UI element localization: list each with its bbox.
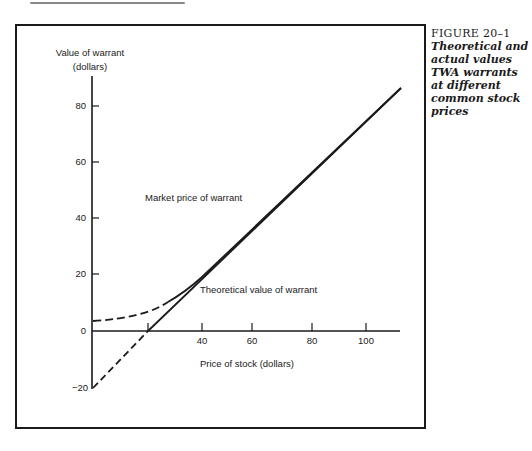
y-tick-label: 20 xyxy=(75,268,86,279)
warrant-chart: 80 60 40 20 0 −20 40 60 80 100 Value of … xyxy=(0,0,532,451)
theoretical-value-line-dashed xyxy=(93,331,148,388)
market-price-curve-dashed xyxy=(93,302,168,321)
x-tick-label: 80 xyxy=(307,335,318,346)
y-tick-label: −20 xyxy=(72,382,88,393)
x-tick-label: 100 xyxy=(358,335,374,346)
y-tick-label: 60 xyxy=(75,156,86,167)
x-axis-title: Price of stock (dollars) xyxy=(200,358,294,369)
x-ticks xyxy=(148,323,366,331)
x-tick-label: 40 xyxy=(197,335,208,346)
y-tick-label: 40 xyxy=(75,212,86,223)
y-tick-label: 80 xyxy=(75,100,86,111)
y-axis-title: Value of warrant xyxy=(56,47,125,58)
x-tick-label: 60 xyxy=(247,335,258,346)
y-axis-title-units: (dollars) xyxy=(73,61,107,72)
y-ticks xyxy=(92,106,99,274)
theoretical-value-annotation: Theoretical value of warrant xyxy=(200,284,318,295)
market-price-annotation: Market price of warrant xyxy=(145,192,243,203)
y-tick-label: 0 xyxy=(81,325,86,336)
